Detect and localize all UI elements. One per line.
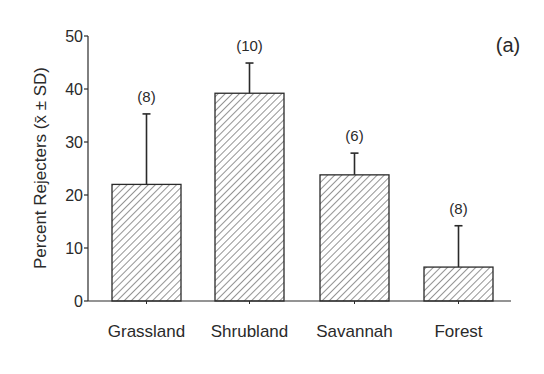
sample-size-label: (8) (137, 88, 155, 105)
y-tick-label: 50 (65, 28, 83, 45)
bar-rect (424, 267, 493, 301)
sample-size-label: (6) (345, 127, 363, 144)
y-axis-label: Percent Rejecters (x̄ ± SD) (31, 67, 50, 269)
bar-forest: (8)Forest (424, 200, 493, 341)
bar-shrubland: (10)Shrubland (211, 37, 289, 341)
x-tick-label: Shrubland (211, 322, 289, 341)
panel-label: (a) (496, 34, 520, 56)
sample-size-label: (8) (449, 200, 467, 217)
y-tick-label: 20 (65, 187, 83, 204)
bar-rect (320, 175, 389, 301)
y-tick-label: 40 (65, 81, 83, 98)
x-tick-label: Grassland (108, 322, 185, 341)
bars: (8)Grassland(10)Shrubland(6)Savannah(8)F… (108, 37, 493, 341)
bar-savannah: (6)Savannah (316, 127, 393, 341)
bar-rect (112, 184, 181, 301)
y-tick-label: 30 (65, 134, 83, 151)
y-tick-label: 10 (65, 240, 83, 257)
bar-rect (215, 93, 284, 301)
sample-size-label: (10) (236, 37, 263, 54)
bar-chart: 01020304050 (8)Grassland(10)Shrubland(6)… (0, 0, 544, 374)
x-tick-label: Forest (434, 322, 482, 341)
y-tick-label: 0 (74, 293, 83, 310)
x-tick-label: Savannah (316, 322, 393, 341)
bar-grassland: (8)Grassland (108, 88, 185, 341)
